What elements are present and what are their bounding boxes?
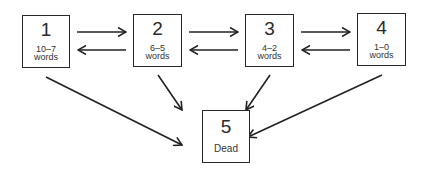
- node-caption: 1–0 words: [358, 43, 405, 59]
- edge-2-to-5: [158, 75, 182, 110]
- word-unit: words: [246, 52, 293, 60]
- state-node-1: 1 10–7 words: [22, 15, 70, 68]
- node-description: Dead: [203, 145, 249, 153]
- word-unit: words: [134, 52, 181, 60]
- edge-4-to-5: [248, 75, 382, 137]
- node-caption: 4–2 words: [246, 44, 293, 60]
- edge-3-to-5: [246, 75, 270, 110]
- edge-1-to-5: [46, 77, 182, 145]
- state-node-5-dead: 5 Dead: [202, 110, 250, 163]
- node-caption: 10–7 words: [23, 45, 69, 61]
- node-number: 1: [23, 20, 69, 40]
- node-caption: 6–5 words: [134, 44, 181, 60]
- node-number: 3: [246, 19, 293, 39]
- node-number: 5: [203, 117, 249, 137]
- node-number: 4: [358, 18, 405, 38]
- node-caption: Dead: [203, 145, 249, 153]
- node-number: 2: [134, 19, 181, 39]
- word-unit: words: [358, 51, 405, 59]
- word-unit: words: [23, 53, 69, 61]
- state-node-3: 3 4–2 words: [245, 14, 294, 67]
- state-node-2: 2 6–5 words: [133, 14, 182, 67]
- state-node-4: 4 1–0 words: [357, 13, 406, 66]
